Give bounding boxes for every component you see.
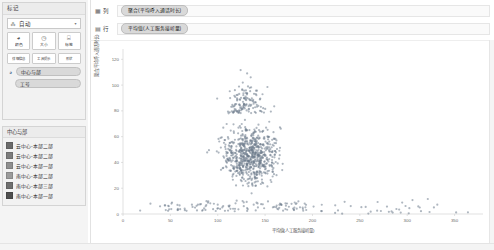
- svg-text:60: 60: [114, 134, 119, 139]
- color-button[interactable]: ◕ 颜色: [7, 32, 30, 50]
- svg-text:0: 0: [117, 212, 120, 217]
- columns-pill[interactable]: 聚合(平均呼入通话时长): [121, 5, 188, 16]
- detail-encoding-pill[interactable]: 工号: [15, 79, 81, 88]
- x-axis-title: 平均值(人工服务接听量): [91, 227, 494, 233]
- legend-item[interactable]: 南中心-本部二部: [6, 170, 82, 180]
- rows-shelf-slot[interactable]: 平均值(人工服务接听量): [117, 23, 490, 35]
- size-button[interactable]: ◷ 大小: [32, 32, 55, 50]
- legend-item[interactable]: 南中心-本部三部: [6, 180, 82, 190]
- svg-text:20: 20: [114, 186, 119, 191]
- columns-shelf[interactable]: ▦ 列 聚合(平均呼入通话时长): [95, 3, 490, 18]
- chart-panel: 聚合(平均呼入通话时长) 020406080100120050100150200…: [90, 40, 494, 243]
- legend-title: 中心与部: [3, 127, 85, 138]
- columns-icon: ▦: [95, 7, 101, 14]
- color-encoding-pill[interactable]: 中心与部: [16, 67, 81, 76]
- legend-item-label: 南中心-本部三部: [16, 182, 53, 189]
- marks-button-row-1: ◕ 颜色 ◷ 大小 ⌸ 标签: [7, 32, 81, 50]
- tooltip-button[interactable]: 工具提示: [32, 53, 55, 64]
- mark-type-label: 自动: [18, 20, 71, 28]
- svg-text:350: 350: [451, 218, 459, 223]
- detail-button-label: 详细信息: [12, 56, 26, 60]
- status-bar: [0, 243, 494, 250]
- scatter-plot[interactable]: 聚合(平均呼入通话时长) 020406080100120050100150200…: [91, 41, 494, 244]
- shape-button-label: 形状: [66, 56, 73, 60]
- tableau-worksheet-window: 标记 ⁂ 自动 ▾ ◕ 颜色 ◷ 大小 ⌸ 标签: [0, 0, 494, 250]
- svg-text:250: 250: [356, 218, 364, 223]
- size-icon: ◷: [41, 35, 46, 42]
- legend-swatch: [6, 192, 13, 199]
- svg-text:300: 300: [404, 218, 412, 223]
- rows-label: 行: [103, 25, 109, 33]
- detail-button[interactable]: 详细信息: [7, 53, 30, 64]
- rows-shelf[interactable]: ▤ 行 平均值(人工服务接听量): [95, 21, 490, 36]
- chevron-down-icon: ▾: [71, 21, 80, 26]
- legend-swatch: [6, 172, 13, 179]
- mark-type-dropdown[interactable]: ⁂ 自动 ▾: [7, 18, 81, 29]
- legend-item-label: 云中心-本部二部: [16, 152, 53, 159]
- legend-swatch: [6, 152, 13, 159]
- marks-card-title: 标记: [3, 3, 85, 15]
- scatter-plot-svg[interactable]: 020406080100120050100150200250300350: [91, 41, 494, 244]
- automatic-mark-icon: ⁂: [8, 21, 18, 27]
- legend-swatch: [6, 182, 13, 189]
- svg-text:100: 100: [214, 218, 222, 223]
- svg-text:40: 40: [114, 160, 119, 165]
- label-button[interactable]: ⌸ 标签: [58, 32, 81, 50]
- columns-shelf-slot[interactable]: 聚合(平均呼入通话时长): [117, 5, 490, 17]
- detail-encoding-row[interactable]: 工号: [15, 79, 81, 88]
- svg-text:100: 100: [112, 83, 120, 88]
- legend-item[interactable]: 云中心-本部二部: [6, 150, 82, 160]
- vertical-scrollbar[interactable]: [489, 40, 494, 243]
- legend-item[interactable]: 云中心-本部二部: [6, 140, 82, 150]
- marks-button-row-2: 详细信息 工具提示 形状: [7, 53, 81, 64]
- color-encoding-icon: ◕: [7, 69, 14, 75]
- svg-text:0: 0: [122, 218, 125, 223]
- marks-card: 标记 ⁂ 自动 ▾ ◕ 颜色 ◷ 大小 ⌸ 标签: [2, 2, 86, 120]
- color-icon: ◕: [17, 35, 21, 42]
- shelf-area: ▦ 列 聚合(平均呼入通话时长) ▤ 行 平均值(人工服务接听量): [90, 0, 494, 40]
- legend-item[interactable]: 云中心-本部一部: [6, 160, 82, 170]
- columns-shelf-name: ▦ 列: [95, 7, 117, 15]
- legend-item-list: 云中心-本部二部 云中心-本部二部 云中心-本部一部 南中心-本部二部 南中心-…: [3, 138, 85, 202]
- legend-item-label: 云中心-本部一部: [16, 162, 53, 169]
- legend-swatch: [6, 142, 13, 149]
- legend-item-label: 云中心-本部二部: [16, 142, 53, 149]
- size-button-label: 大小: [40, 42, 47, 47]
- legend-item-label: 南中心-本部一部: [16, 192, 53, 199]
- label-button-label: 标签: [66, 42, 73, 47]
- svg-text:120: 120: [112, 57, 120, 62]
- color-legend: 中心与部 云中心-本部二部 云中心-本部二部 云中心-本部一部 南中心-本部二部: [2, 126, 86, 206]
- label-icon: ⌸: [67, 35, 71, 42]
- shape-button[interactable]: 形状: [58, 53, 81, 64]
- legend-swatch: [6, 162, 13, 169]
- legend-item[interactable]: 南中心-本部一部: [6, 190, 82, 200]
- tooltip-button-label: 工具提示: [37, 56, 51, 60]
- color-encoding-row[interactable]: ◕ 中心与部: [7, 67, 81, 76]
- color-button-label: 颜色: [15, 42, 22, 47]
- svg-text:50: 50: [168, 218, 173, 223]
- rows-pill[interactable]: 平均值(人工服务接听量): [121, 23, 188, 34]
- svg-text:200: 200: [309, 218, 317, 223]
- sidebar: 标记 ⁂ 自动 ▾ ◕ 颜色 ◷ 大小 ⌸ 标签: [0, 0, 88, 250]
- legend-item-label: 南中心-本部二部: [16, 172, 53, 179]
- columns-label: 列: [103, 7, 109, 15]
- svg-text:80: 80: [114, 108, 119, 113]
- svg-text:150: 150: [261, 218, 269, 223]
